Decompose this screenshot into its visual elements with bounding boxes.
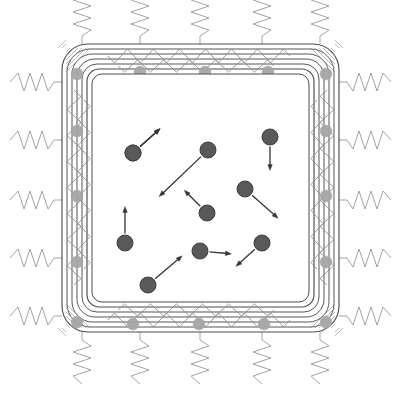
wall-corner-hatch [315,48,335,68]
wall-corner-hatch [319,48,335,64]
wall-atom [320,316,332,328]
wall-corner-hatch [335,328,343,336]
wall-corner-hatch [335,328,339,332]
gas-particle [199,205,215,221]
external-spring-bottom [191,332,209,384]
wall-atom [258,318,270,330]
external-spring-left [10,191,62,209]
wall-atom [320,68,332,80]
external-spring-bottom [311,332,329,384]
wall-spring-horizontal [108,49,290,63]
external-spring-left [10,131,62,149]
simulation-box-figure [0,0,399,397]
gas-particle [200,142,216,158]
external-spring-bottom [253,332,271,384]
wall-atom [71,125,83,137]
external-spring-right [339,191,391,209]
interior-layer [92,74,309,302]
wall-spring-vertical [320,90,334,285]
wall-corner-hatch [327,48,335,56]
wall-atom [71,68,83,80]
gas-particle [125,145,141,161]
external-spring-right [339,249,391,267]
gas-particle [262,129,278,145]
gas-particle [140,277,156,293]
wall-atom [71,316,83,328]
wall-spring-vertical [67,90,81,285]
external-spring-bottom [73,332,91,384]
external-spring-top [253,0,271,44]
external-spring-right [339,307,391,325]
wall-spring-vertical [78,100,90,269]
gas-particle [254,235,270,251]
wall-corner-hatch [335,44,339,48]
wall-corner-hatch [66,48,74,56]
wall-atom [193,318,205,330]
external-spring-left [10,249,62,267]
external-spring-top [191,0,209,44]
wall-atom [71,256,83,268]
wall-corner-hatch [66,48,86,68]
wall-corner-hatch [62,44,66,48]
wall-corner-hatch [58,328,66,336]
wall-corner-hatch [335,40,343,48]
external-spring-left [10,307,62,325]
wall-spring-vertical [311,100,323,269]
wall-corner-hatch [66,48,82,64]
external-spring-bottom [131,332,149,384]
external-spring-right [339,131,391,149]
wall-atom [127,318,139,330]
external-spring-top [73,0,91,44]
external-spring-top [131,0,149,44]
wall-atom [320,125,332,137]
wall-atom [320,190,332,202]
wall-atom [71,190,83,202]
diagram-canvas [0,0,399,397]
box-interior [92,74,309,302]
gas-particle [237,181,253,197]
gas-particle [192,243,208,259]
gas-particle [117,235,133,251]
wall-corner-hatch [58,40,66,48]
external-spring-left [10,73,62,91]
external-spring-right [339,73,391,91]
external-spring-top [311,0,329,44]
wall-atom [320,256,332,268]
wall-corner-hatch [62,328,66,332]
